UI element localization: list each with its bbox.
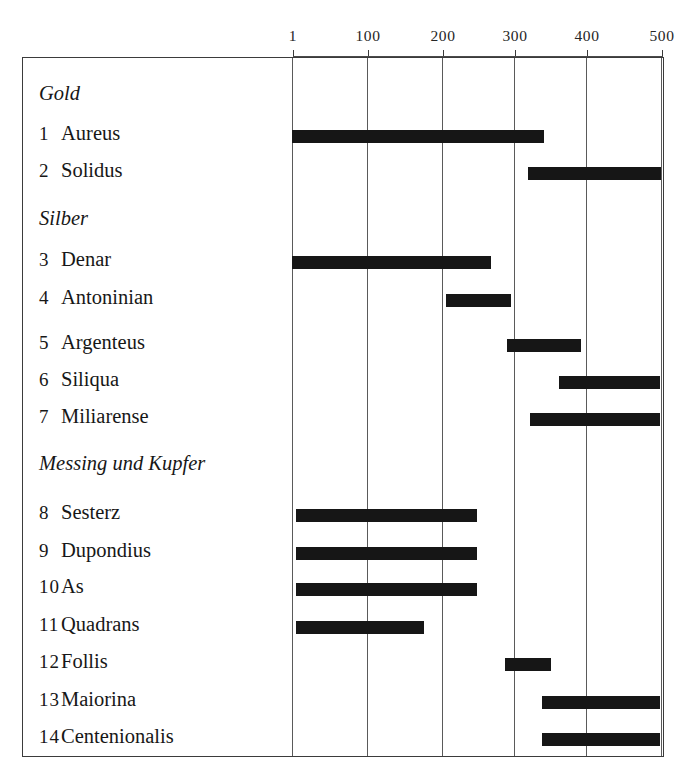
coin-row-name: Miliarense bbox=[61, 405, 149, 427]
coin-range-bar bbox=[296, 509, 477, 522]
axis-tick-label: 500 bbox=[649, 27, 674, 45]
coin-range-bar bbox=[296, 547, 477, 560]
group-heading: Messing und Kupfer bbox=[39, 453, 205, 474]
coin-row-label: 9Dupondius bbox=[39, 540, 151, 561]
coin-range-bar bbox=[559, 376, 660, 389]
coin-row-name: Argenteus bbox=[61, 331, 145, 353]
axis-tick-label: 200 bbox=[430, 27, 455, 45]
coin-row-number: 1 bbox=[39, 124, 61, 143]
coin-range-bar bbox=[530, 413, 660, 426]
coin-row-name: Centenionalis bbox=[61, 725, 174, 747]
chart-gridline bbox=[442, 58, 443, 756]
coin-range-bar bbox=[507, 339, 581, 352]
roman-coinage-timeline-chart: 1100200300400500 Gold1Aureus2SolidusSilb… bbox=[0, 0, 688, 781]
coin-row-number: 9 bbox=[39, 541, 61, 560]
chart-gridline bbox=[514, 58, 515, 756]
coin-row-number: 5 bbox=[39, 333, 61, 352]
axis-tick-label: 1 bbox=[289, 27, 297, 45]
coin-range-bar bbox=[296, 583, 477, 596]
chart-gridline bbox=[661, 58, 662, 756]
coin-row-name: Denar bbox=[61, 248, 111, 270]
coin-row-label: 7Miliarense bbox=[39, 406, 149, 427]
coin-row-name: Maiorina bbox=[61, 688, 136, 710]
coin-row-label: 12Follis bbox=[39, 651, 108, 672]
coin-row-label: 10As bbox=[39, 576, 84, 597]
coin-row-name: Siliqua bbox=[61, 368, 119, 390]
coin-row-label: 1Aureus bbox=[39, 123, 120, 144]
coin-row-number: 4 bbox=[39, 288, 61, 307]
coin-range-bar bbox=[542, 696, 660, 709]
coin-row-label: 2Solidus bbox=[39, 160, 123, 181]
coin-range-bar bbox=[446, 294, 511, 307]
coin-range-bar bbox=[292, 130, 544, 143]
coin-row-name: Aureus bbox=[61, 122, 120, 144]
coin-row-label: 4Antoninian bbox=[39, 287, 153, 308]
coin-range-bar bbox=[528, 167, 661, 180]
coin-row-label: 6Siliqua bbox=[39, 369, 119, 390]
coin-row-name: Sesterz bbox=[61, 501, 120, 523]
coin-row-label: 11Quadrans bbox=[39, 614, 140, 635]
coin-row-name: Quadrans bbox=[61, 613, 140, 635]
coin-row-label: 5Argenteus bbox=[39, 332, 145, 353]
coin-row-number: 12 bbox=[39, 652, 61, 671]
chart-gridline bbox=[586, 58, 587, 756]
coin-row-number: 13 bbox=[39, 690, 61, 709]
coin-row-name: As bbox=[61, 575, 84, 597]
coin-row-number: 2 bbox=[39, 161, 61, 180]
coin-row-name: Antoninian bbox=[61, 286, 153, 308]
axis-tick-label: 100 bbox=[355, 27, 380, 45]
chart-gridline bbox=[292, 58, 293, 756]
coin-row-number: 3 bbox=[39, 250, 61, 269]
coin-row-number: 10 bbox=[39, 577, 61, 596]
axis-tick-label: 300 bbox=[502, 27, 527, 45]
coin-row-number: 7 bbox=[39, 407, 61, 426]
coin-row-number: 11 bbox=[39, 615, 61, 634]
coin-row-label: 13Maiorina bbox=[39, 689, 136, 710]
chart-x-axis: 1100200300400500 bbox=[0, 0, 688, 57]
coin-row-number: 6 bbox=[39, 370, 61, 389]
coin-row-name: Dupondius bbox=[61, 539, 151, 561]
coin-row-name: Follis bbox=[61, 650, 108, 672]
coin-row-number: 8 bbox=[39, 503, 61, 522]
chart-gridline bbox=[367, 58, 368, 756]
coin-row-label: 3Denar bbox=[39, 249, 111, 270]
coin-range-bar bbox=[505, 658, 551, 671]
chart-plot-frame: Gold1Aureus2SolidusSilber3Denar4Antonini… bbox=[22, 57, 664, 757]
coin-row-name: Solidus bbox=[61, 159, 123, 181]
group-heading: Gold bbox=[39, 83, 80, 104]
coin-range-bar bbox=[296, 621, 424, 634]
axis-tick-label: 400 bbox=[574, 27, 599, 45]
coin-row-label: 8Sesterz bbox=[39, 502, 120, 523]
coin-range-bar bbox=[292, 256, 491, 269]
group-heading: Silber bbox=[39, 208, 88, 229]
coin-row-label: 14Centenionalis bbox=[39, 726, 174, 747]
coin-row-number: 14 bbox=[39, 727, 61, 746]
coin-range-bar bbox=[542, 733, 660, 746]
